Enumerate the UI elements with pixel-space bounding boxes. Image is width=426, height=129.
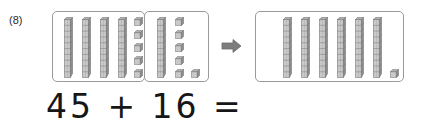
- arrow-right-icon: [221, 38, 243, 54]
- second-addend-box: [144, 11, 209, 82]
- first-addend-box: [52, 11, 145, 82]
- equation-text: 45 + 16 =: [46, 88, 244, 126]
- sum-box: [255, 11, 404, 82]
- problem-number: (8): [9, 14, 22, 26]
